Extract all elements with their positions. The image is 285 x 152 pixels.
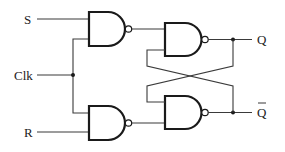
nand-gate-q	[165, 23, 208, 56]
nand-gate-qbar	[165, 96, 208, 129]
output-label-qbar-text: Q	[257, 105, 267, 120]
nand-gate-body	[89, 106, 125, 140]
inverter-bubble-icon	[125, 120, 131, 126]
output-label-q: Q	[257, 32, 267, 47]
input-label-clk: Clk	[14, 68, 33, 83]
wire-clk-branch	[73, 39, 89, 113]
inverter-bubble-icon	[202, 109, 208, 115]
nand-gate-body	[89, 12, 125, 46]
sr-flip-flop-diagram: S Clk R Q Q	[0, 0, 285, 152]
nand-gate-r	[89, 106, 132, 140]
inverter-bubble-icon	[202, 36, 208, 42]
inverter-bubble-icon	[125, 26, 131, 32]
nand-gate-s	[89, 12, 132, 46]
nand-gate-body	[165, 23, 202, 56]
input-label-r: R	[24, 125, 33, 140]
input-label-s: S	[24, 12, 31, 27]
output-label-qbar: Q	[257, 103, 267, 120]
junction-dot-clk	[71, 73, 75, 77]
nand-gate-body	[165, 96, 202, 129]
